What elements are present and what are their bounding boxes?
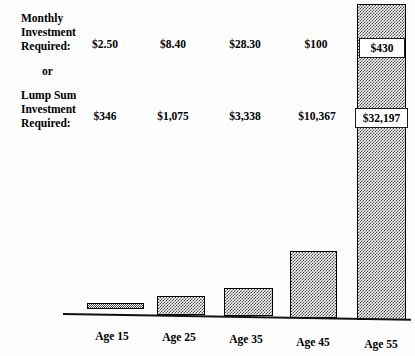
axis-label-age-55: Age 55: [364, 338, 398, 350]
axis-label-age-15: Age 15: [95, 330, 129, 342]
callout-lump-age-55: $32,197: [355, 108, 408, 128]
bar-age-15: [87, 303, 144, 309]
axis-label-age-35: Age 35: [229, 333, 263, 345]
callout-monthly-age-55: $430: [359, 38, 405, 58]
investment-comparison-chart: Monthly Investment Required: or Lump Sum…: [0, 0, 415, 356]
axis-label-age-45: Age 45: [296, 336, 330, 348]
bar-age-35: [224, 288, 273, 316]
plot-area: $430 $32,197: [0, 0, 415, 356]
bar-age-25: [157, 296, 205, 315]
axis-label-age-25: Age 25: [162, 331, 196, 343]
bar-age-45: [290, 251, 337, 318]
